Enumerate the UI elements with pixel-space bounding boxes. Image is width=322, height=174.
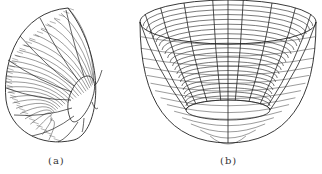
wireframe-bowl-a	[0, 0, 115, 150]
wireframe-bowl-b	[135, 0, 322, 150]
caption-a: (a)	[48, 155, 65, 166]
caption-b: (b)	[220, 155, 237, 166]
figure-b	[135, 0, 322, 150]
figure-a	[0, 0, 115, 150]
